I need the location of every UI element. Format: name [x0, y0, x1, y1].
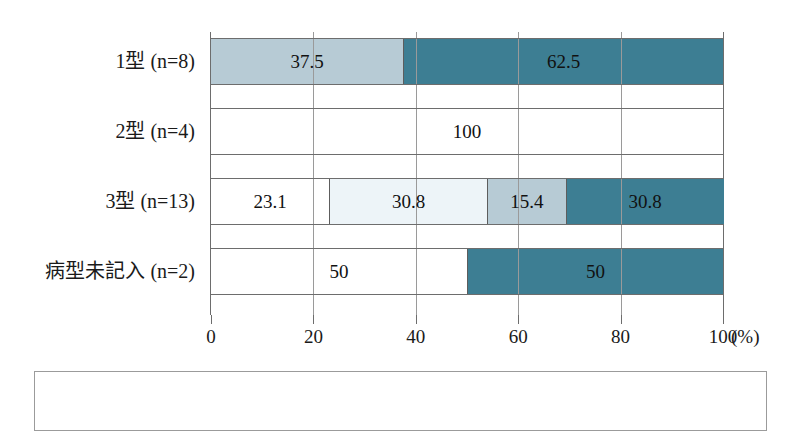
bar-segment-value: 50	[330, 261, 349, 283]
bar-segment[interactable]: 62.5	[403, 39, 723, 84]
x-tick-100	[723, 315, 724, 324]
bar-segment[interactable]: 50	[467, 249, 723, 294]
category-label-0: 1型 (n=8)	[0, 38, 203, 85]
bar-segment[interactable]: 15.4	[487, 179, 566, 224]
bar-segment[interactable]: 30.8	[566, 179, 724, 224]
bar-segment[interactable]: 23.1	[211, 179, 329, 224]
bar-segment-value: 30.8	[392, 191, 425, 213]
x-axis-unit-label: (%)	[731, 326, 759, 348]
bar-segment[interactable]: 100	[211, 109, 723, 154]
bar-row[interactable]: 23.130.815.430.8	[211, 178, 723, 225]
plot-area: 37.562.510023.130.815.430.85050 02040608…	[211, 32, 723, 315]
bar-segment-value: 15.4	[510, 191, 543, 213]
bar-segment-value: 62.5	[547, 51, 580, 73]
axis-right-frame-line	[723, 32, 724, 315]
category-label-1: 2型 (n=4)	[0, 108, 203, 155]
category-axis-labels: 1型 (n=8) 2型 (n=4) 3型 (n=13) 病型未記入 (n=2)	[0, 32, 203, 315]
x-tick-label-60: 60	[509, 326, 528, 348]
bar-segment[interactable]: 37.5	[211, 39, 403, 84]
bar-segment-value: 37.5	[290, 51, 323, 73]
x-tick-80	[621, 315, 622, 324]
x-tick-40	[416, 315, 417, 324]
bar-segment[interactable]: 30.8	[329, 179, 487, 224]
x-tick-label-20: 20	[304, 326, 323, 348]
category-label-text: 2型 (n=4)	[115, 120, 195, 142]
x-tick-0	[211, 315, 212, 324]
x-tick-label-40: 40	[406, 326, 425, 348]
bar-row[interactable]: 100	[211, 108, 723, 155]
bar-segment-value: 30.8	[629, 191, 662, 213]
category-label-3: 病型未記入 (n=2)	[0, 248, 203, 295]
x-tick-60	[518, 315, 519, 324]
bar-segment-value: 50	[586, 261, 605, 283]
caption-frame-box	[34, 371, 767, 431]
bar-segment-value: 23.1	[254, 191, 287, 213]
x-tick-label-0: 0	[206, 326, 216, 348]
bar-row[interactable]: 5050	[211, 248, 723, 295]
category-label-text: 3型 (n=13)	[105, 190, 195, 212]
x-tick-20	[313, 315, 314, 324]
bar-row[interactable]: 37.562.5	[211, 38, 723, 85]
category-label-text: 病型未記入 (n=2)	[45, 260, 195, 282]
category-label-2: 3型 (n=13)	[0, 178, 203, 225]
bar-segment[interactable]: 50	[211, 249, 467, 294]
bar-segment-value: 100	[453, 121, 482, 143]
x-tick-label-80: 80	[611, 326, 630, 348]
category-label-text: 1型 (n=8)	[115, 50, 195, 72]
